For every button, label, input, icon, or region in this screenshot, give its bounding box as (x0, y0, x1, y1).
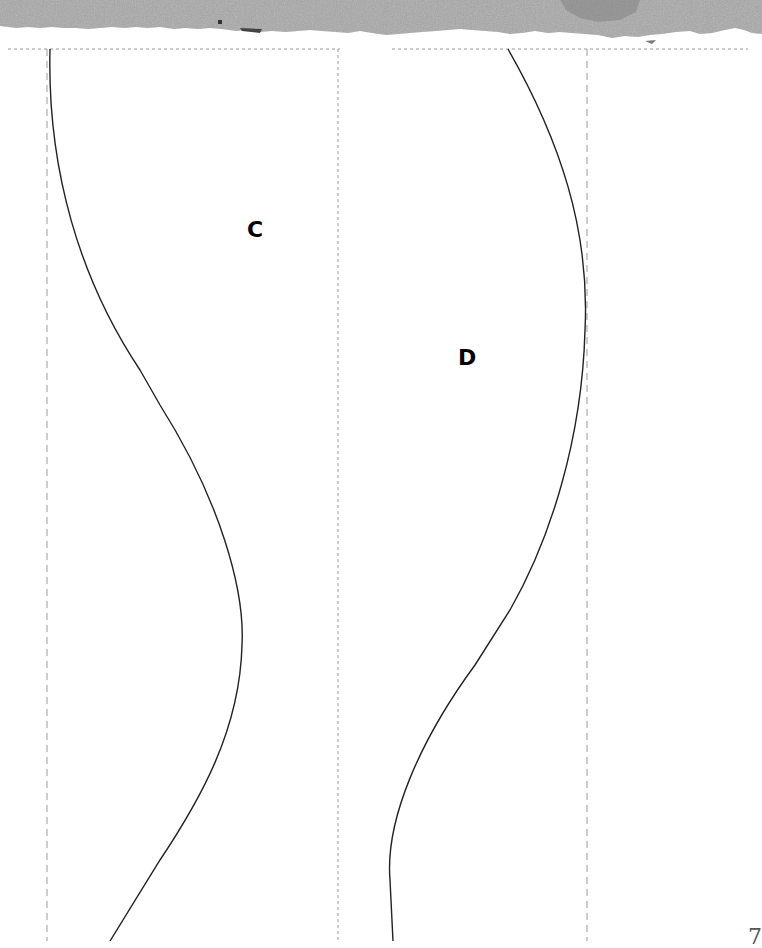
piece-label-d: D (458, 347, 476, 369)
page-number: 7 (748, 926, 762, 948)
piece-label-c: C (247, 219, 263, 241)
pattern-curve-c (50, 49, 242, 941)
pattern-curve-d (390, 49, 586, 941)
